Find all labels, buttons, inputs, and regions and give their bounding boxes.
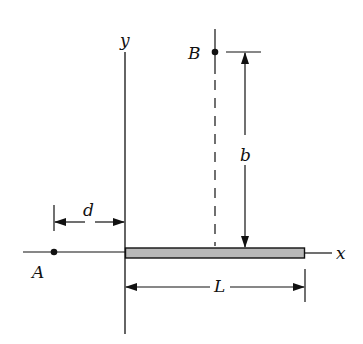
point-b-dot [212, 49, 219, 56]
dimension-l-label: L [213, 276, 225, 296]
y-axis-label: y [119, 30, 130, 50]
dimension-b-label: b [240, 145, 251, 165]
point-b: B [187, 29, 218, 246]
point-a-dot [51, 249, 58, 256]
point-b-label: B [187, 43, 201, 63]
dimension-l: L [126, 269, 305, 302]
y-axis: y [119, 30, 130, 334]
x-axis-label: x [336, 243, 346, 263]
dimension-d-label: d [83, 200, 94, 220]
diagram-canvas: y x A d B b L [0, 0, 363, 344]
point-a-label: A [30, 262, 44, 282]
point-a: A [30, 249, 57, 282]
dimension-b: b [226, 52, 261, 247]
rod [126, 248, 305, 258]
dimension-d: d [54, 200, 124, 231]
